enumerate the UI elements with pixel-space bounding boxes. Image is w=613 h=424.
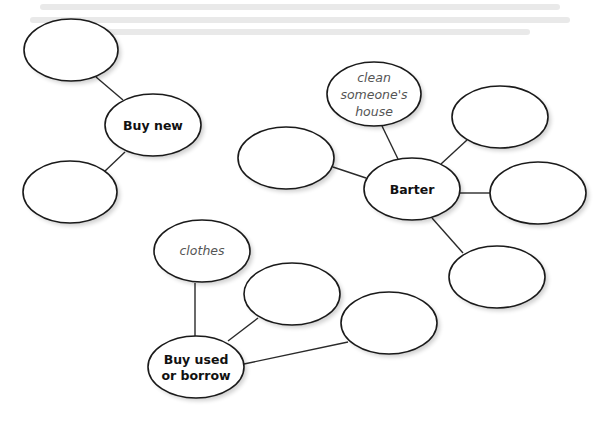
node-label-clothes: clothes bbox=[179, 243, 225, 258]
node-label-clean-line1: clean bbox=[357, 70, 391, 85]
empty-node-buy-new-a[interactable] bbox=[24, 19, 118, 81]
cluster-buy-used: clothes Buy used or borrow bbox=[148, 220, 437, 398]
connector-barter-a bbox=[382, 126, 398, 159]
empty-node-barter-b[interactable] bbox=[238, 127, 334, 189]
empty-node-buy-new-b[interactable] bbox=[23, 161, 117, 223]
empty-node-barter-d[interactable] bbox=[490, 162, 586, 224]
hub-label-buy-used-line2: or borrow bbox=[161, 368, 231, 383]
empty-node-barter-e[interactable] bbox=[449, 246, 545, 308]
empty-node-barter-c[interactable] bbox=[452, 86, 548, 148]
node-label-clean-line3: house bbox=[355, 104, 393, 119]
connector-buy-new-b bbox=[104, 152, 125, 172]
empty-node-buy-used-c[interactable] bbox=[341, 292, 437, 354]
cluster-buy-new: Buy new bbox=[23, 19, 201, 223]
connector-barter-c bbox=[441, 140, 467, 164]
mind-map-canvas: Buy new clean someone's house Barter clo… bbox=[0, 0, 613, 424]
connector-buy-new-a bbox=[96, 77, 123, 100]
node-label-clean-line2: someone's bbox=[340, 87, 408, 102]
hub-label-buy-new: Buy new bbox=[123, 118, 183, 133]
connector-barter-e bbox=[432, 218, 463, 253]
connector-barter-b bbox=[333, 167, 366, 178]
hub-label-buy-used-line1: Buy used bbox=[164, 352, 229, 367]
connector-buy-used-b bbox=[228, 318, 258, 341]
connector-buy-used-c bbox=[244, 342, 348, 364]
empty-node-buy-used-b[interactable] bbox=[244, 263, 340, 325]
hub-label-barter: Barter bbox=[390, 182, 436, 197]
hub-node-buy-used bbox=[148, 336, 244, 398]
